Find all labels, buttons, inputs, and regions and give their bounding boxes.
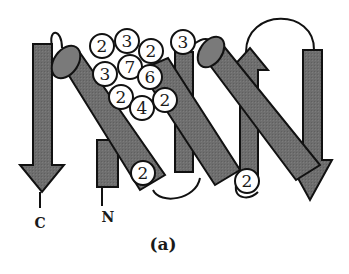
svg-text:2: 2 [242, 171, 253, 191]
svg-text:6: 6 [145, 67, 156, 87]
loop-bottom-mid [153, 178, 200, 199]
figure-caption: (a) [149, 234, 176, 254]
n-terminus-label: N [102, 209, 115, 225]
marker: 2 [153, 88, 177, 112]
marker: 3 [115, 29, 139, 53]
svg-text:2: 2 [160, 90, 171, 110]
c-terminus-label: C [34, 215, 45, 231]
svg-text:2: 2 [146, 41, 157, 61]
svg-text:2: 2 [138, 163, 149, 183]
marker: 2 [235, 169, 259, 193]
svg-text:2: 2 [97, 36, 108, 56]
marker: 6 [138, 65, 162, 89]
topology-diagram: 2 3 2 3 3 7 6 2 4 2 2 2 C N (a) [0, 0, 349, 274]
svg-text:3: 3 [122, 31, 133, 51]
marker: 3 [93, 62, 117, 86]
protein-topology-svg: 2 3 2 3 3 7 6 2 4 2 2 2 C N (a) [0, 0, 349, 274]
svg-text:3: 3 [178, 32, 189, 52]
marker: 2 [131, 161, 155, 185]
loop-top-right [246, 19, 314, 52]
marker: 3 [171, 30, 195, 54]
marker: 4 [130, 96, 154, 120]
svg-text:3: 3 [100, 64, 111, 84]
marker: 2 [90, 34, 114, 58]
svg-text:2: 2 [116, 87, 127, 107]
svg-text:7: 7 [125, 57, 136, 77]
marker: 2 [139, 39, 163, 63]
svg-text:4: 4 [137, 98, 148, 118]
